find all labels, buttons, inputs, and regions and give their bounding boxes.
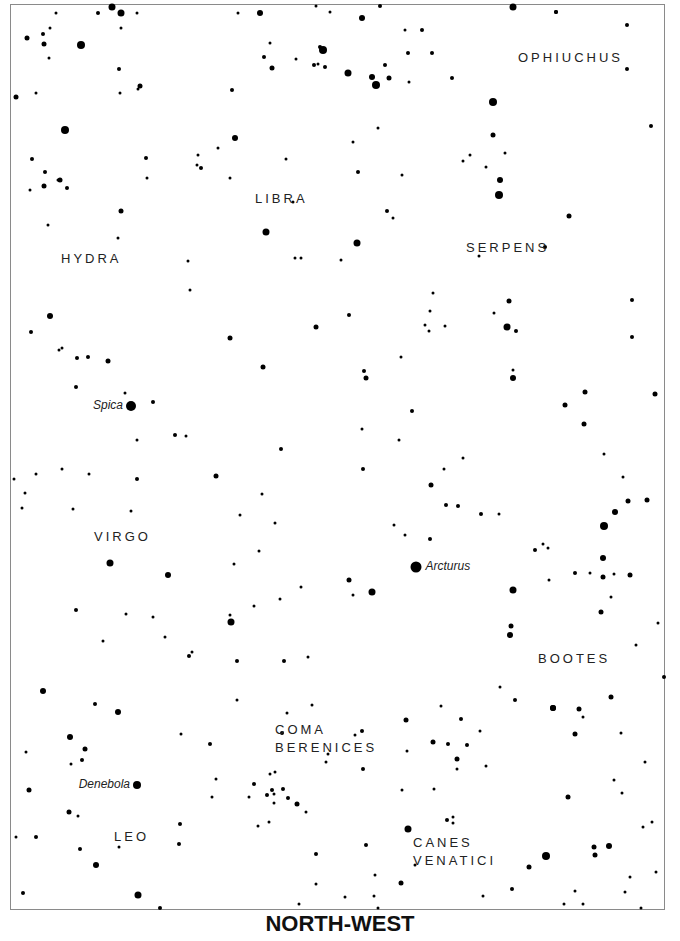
star (577, 707, 582, 712)
star (542, 543, 545, 546)
star (430, 51, 434, 55)
star (479, 730, 482, 733)
star (369, 74, 375, 80)
star (83, 747, 88, 752)
star (185, 435, 188, 438)
star (197, 154, 200, 157)
constellation-label: CANES (413, 836, 473, 849)
star (279, 598, 282, 601)
star (58, 349, 61, 352)
star (151, 400, 155, 404)
star (635, 644, 638, 647)
star (592, 845, 597, 850)
star (446, 742, 450, 746)
star (286, 796, 290, 800)
star (96, 11, 100, 15)
star (118, 10, 125, 17)
star (191, 651, 194, 654)
star (510, 4, 517, 11)
star (228, 336, 233, 341)
star (378, 4, 382, 8)
direction-title: NORTH-WEST (0, 913, 680, 935)
star (547, 547, 550, 550)
star (25, 751, 28, 754)
star (401, 174, 404, 177)
star (196, 164, 199, 167)
star (491, 133, 496, 138)
star (270, 66, 275, 71)
star (400, 356, 403, 359)
star (621, 792, 624, 795)
star (361, 467, 365, 471)
star (295, 802, 300, 807)
star (374, 874, 377, 877)
star (404, 534, 407, 537)
star (312, 63, 316, 67)
star (269, 773, 272, 776)
star (130, 510, 133, 513)
star (274, 771, 277, 774)
star (582, 903, 585, 906)
star (593, 853, 598, 858)
star (319, 46, 327, 54)
star (40, 688, 46, 694)
star (61, 126, 69, 134)
star (25, 36, 30, 41)
star (513, 698, 517, 702)
star (369, 589, 376, 596)
star (582, 422, 587, 427)
constellation-label: VIRGO (94, 530, 151, 543)
star (263, 229, 270, 236)
star (352, 594, 355, 597)
star (117, 67, 121, 71)
star (21, 891, 25, 895)
star (232, 135, 238, 141)
star (574, 890, 577, 893)
star (109, 4, 116, 11)
star (93, 862, 99, 868)
star (15, 836, 18, 839)
star (507, 632, 513, 638)
star (235, 659, 239, 663)
star (41, 32, 45, 36)
star (410, 409, 414, 413)
star (214, 474, 219, 479)
star (118, 846, 121, 849)
star (252, 782, 256, 786)
named-star-denebola (133, 781, 141, 789)
star (115, 709, 121, 715)
star (509, 624, 514, 629)
star (329, 11, 332, 14)
star (485, 765, 488, 768)
star (455, 757, 460, 762)
star (80, 758, 84, 762)
star (88, 473, 91, 476)
star (273, 793, 276, 796)
star (119, 92, 122, 95)
star (428, 537, 432, 541)
named-star-spica (126, 401, 136, 411)
star (642, 826, 645, 829)
star (78, 847, 82, 851)
star (261, 365, 266, 370)
star (307, 656, 310, 659)
star (345, 70, 352, 77)
star (178, 822, 182, 826)
star (67, 734, 73, 740)
star (229, 177, 232, 180)
star (270, 788, 274, 792)
star (354, 734, 357, 737)
star (428, 330, 431, 333)
star (373, 895, 376, 898)
star (262, 55, 266, 59)
star (75, 356, 79, 360)
star (431, 740, 436, 745)
constellation-label: COMA (275, 723, 326, 736)
star (77, 815, 80, 818)
star (217, 147, 220, 150)
star (347, 578, 352, 583)
star (236, 699, 239, 702)
star (120, 27, 123, 30)
star (173, 433, 177, 437)
star (34, 835, 38, 839)
